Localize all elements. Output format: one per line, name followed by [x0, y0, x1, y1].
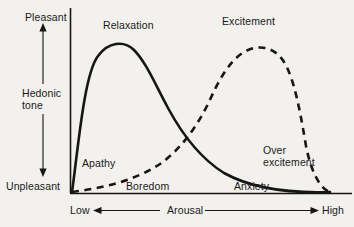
curve-label-over-excitement: Over excitement — [263, 145, 315, 168]
curve-label-over-excitement-line-1: Over — [263, 145, 315, 157]
hedonic-tone-arousal-diagram — [0, 0, 354, 227]
hedonic-tone-arrow-up — [39, 23, 46, 84]
y-axis-bottom-label: Unpleasant — [6, 181, 60, 193]
curve-label-apathy: Apathy — [82, 158, 115, 170]
curve-label-excitement: Excitement — [222, 16, 275, 28]
y-axis-top-label: Pleasant — [25, 12, 67, 24]
figure-container: Pleasant Unpleasant Hedonic tone Relaxat… — [0, 0, 354, 227]
excitement-curve — [72, 47, 330, 192]
x-axis-title: Arousal — [167, 205, 203, 217]
y-axis-title-line-2: tone — [22, 100, 61, 112]
y-axis-title-line-1: Hedonic — [22, 88, 61, 100]
y-axis-title: Hedonic tone — [22, 88, 61, 111]
hedonic-tone-arrow-down — [39, 114, 46, 177]
curve-label-over-excitement-line-2: excitement — [263, 157, 315, 169]
curve-label-relaxation: Relaxation — [103, 20, 154, 32]
arousal-arrow-left — [93, 207, 160, 214]
x-axis-high-label: High — [322, 205, 344, 217]
curve-label-boredom: Boredom — [126, 181, 169, 193]
x-axis-low-label: Low — [70, 205, 90, 217]
curve-label-anxiety: Anxiety — [234, 181, 269, 193]
arousal-arrow-right — [205, 207, 319, 214]
